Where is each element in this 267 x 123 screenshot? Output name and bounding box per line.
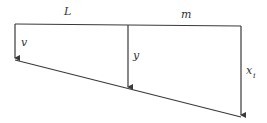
label-v: v [21,36,28,49]
label-x-subscript: i [253,71,256,80]
label-x: x [246,64,253,77]
label-y: y [132,49,140,62]
beam-deflection-diagram: L m v y x i [0,0,267,123]
label-m: m [181,8,191,21]
label-L: L [63,5,71,18]
